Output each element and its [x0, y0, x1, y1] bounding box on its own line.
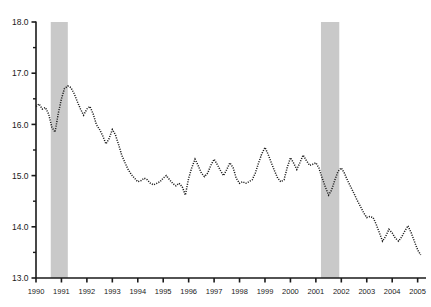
x-tick-label: 2000 [282, 287, 299, 296]
y-tick-label: 18.0 [12, 17, 29, 27]
y-tick-label: 15.0 [12, 171, 29, 181]
x-tick-label: 1996 [180, 287, 197, 296]
chart-canvas: 13.014.015.016.017.018.0 199019911992199… [0, 0, 431, 307]
x-tick-label: 2005 [409, 287, 426, 296]
time-series-chart: 13.014.015.016.017.018.0 199019911992199… [0, 0, 431, 307]
x-tick-label: 1991 [53, 287, 70, 296]
x-tick-label: 1993 [104, 287, 121, 296]
x-tick-label: 2002 [333, 287, 350, 296]
x-tick-label: 1997 [206, 287, 223, 296]
x-tick-label: 1990 [28, 287, 45, 296]
x-tick-label: 1992 [79, 287, 96, 296]
x-tick-label: 2004 [384, 287, 401, 296]
x-tick-label: 1999 [257, 287, 274, 296]
y-tick-label: 14.0 [12, 222, 29, 232]
x-tick-label: 1998 [231, 287, 248, 296]
y-tick-label: 13.0 [12, 273, 29, 283]
recession-1990-1991 [51, 22, 68, 278]
x-tick-label: 1995 [155, 287, 172, 296]
x-tick-label: 1994 [129, 287, 146, 296]
x-tick-label: 2003 [358, 287, 375, 296]
x-tick-label: 2001 [308, 287, 325, 296]
y-tick-label: 16.0 [12, 120, 29, 130]
y-tick-label: 17.0 [12, 68, 29, 78]
recession-2001 [321, 22, 339, 278]
